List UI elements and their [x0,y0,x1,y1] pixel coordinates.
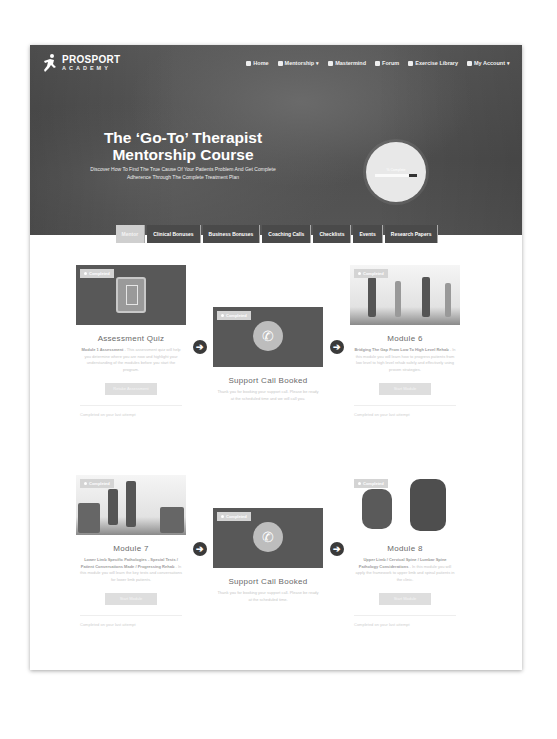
check-icon [221,314,224,317]
equipment-shape [78,503,100,533]
module-thumbnail: Completed [76,265,186,325]
module-title: Module 8 [350,544,460,553]
divider [354,615,456,616]
status-badge: Completed [354,479,388,488]
logo-title: PROSPORT [62,55,121,65]
module-meta: Completed on your last attempt [76,412,186,417]
check-icon [84,482,87,485]
module-card-assessment[interactable]: Completed Assessment Quiz Module 1 Asses… [76,265,186,417]
nav-my-account[interactable]: My Account ▾ [467,60,510,66]
divider [80,405,182,406]
nav-home[interactable]: Home [246,60,268,66]
arrow-right-icon: ➔ [330,340,344,354]
figure-shape [445,283,451,317]
figure-shape [108,489,118,525]
module-meta: Completed on your last attempt [350,412,460,417]
phone-icon: ✆ [253,522,283,552]
status-badge: Completed [217,311,251,320]
nav-mastermind[interactable]: Mastermind [328,60,366,66]
check-icon [221,515,224,518]
chat-icon [375,61,380,66]
phone-icon: ✆ [253,321,283,351]
tab-mentor[interactable]: Mentor [116,225,146,243]
progress-bar [375,174,417,177]
start-module-button[interactable]: Start Module [105,593,157,605]
graduation-icon [278,61,283,66]
nav-mentorship[interactable]: Mentorship ▾ [278,60,320,66]
module-thumbnail: Completed [76,475,186,535]
retake-assessment-button[interactable]: Retake Assessment [105,383,157,395]
figure-shape [126,481,136,527]
module-thumbnail: Completed ✆ [213,508,323,568]
module-title: Support Call Booked [213,577,323,586]
module-description: Thank you for booking your support call.… [213,389,323,402]
module-description: Upper Limb / Cervical Spine / Lumbar Spi… [350,557,460,583]
module-card-support-call[interactable]: Completed ✆ Support Call Booked Thank yo… [213,307,323,402]
logo-subtitle: ACADEMY [62,66,121,72]
chevron-down-icon: ▾ [507,60,510,66]
module-title: Module 6 [350,334,460,343]
tab-research-papers[interactable]: Research Papers [385,225,439,243]
page-title: The ‘Go-To’ Therapist Mentorship Course [78,129,288,163]
arrow-right-icon: ➔ [193,340,207,354]
status-badge: Completed [80,269,114,278]
home-icon [246,61,251,66]
module-description: Thank you for booking your support call.… [213,590,323,603]
page-container: PROSPORT ACADEMY Home Mentorship ▾ Maste… [30,45,522,670]
runner-icon [42,53,58,73]
module-meta: Completed on your last attempt [350,622,460,627]
start-module-button[interactable]: Start Module [379,593,431,605]
module-card-support-call-2[interactable]: Completed ✆ Support Call Booked Thank yo… [213,508,323,603]
trophy-icon [328,61,333,66]
status-badge: Completed [80,479,114,488]
tab-business-bonuses[interactable]: Business Bonuses [203,225,261,243]
module-description: Lower Limb Specific Pathologies - Specia… [76,557,186,583]
module-card-module-8[interactable]: Completed Module 8 Upper Limb / Cervical… [350,475,460,627]
tab-checklists[interactable]: Checklists [313,225,351,243]
course-progress-circle: % Complete [366,142,426,202]
check-icon [84,272,87,275]
module-thumbnail: Completed [350,265,460,325]
tab-events[interactable]: Events [353,225,382,243]
chevron-down-icon: ▾ [316,60,319,66]
module-description: Module 1 Assessment - This assessment qu… [76,347,186,373]
module-meta: Completed on your last attempt [76,622,186,627]
nav-exercise-library[interactable]: Exercise Library [408,60,458,66]
check-icon [358,272,361,275]
arrow-right-icon: ➔ [330,542,344,556]
module-card-module-7[interactable]: Completed Module 7 Lower Limb Specific P… [76,475,186,627]
figure-shape [410,479,446,531]
clipboard-icon [116,277,146,313]
hero-banner: PROSPORT ACADEMY Home Mentorship ▾ Maste… [30,45,522,235]
check-icon [358,482,361,485]
module-title: Module 7 [76,544,186,553]
figure-shape [362,489,392,529]
divider [80,615,182,616]
nav-forum[interactable]: Forum [375,60,399,66]
figure-shape [368,277,376,317]
module-description: Bridging The Gap From Low To High Level … [350,347,460,373]
module-title: Assessment Quiz [76,334,186,343]
module-thumbnail: Completed ✆ [213,307,323,367]
module-thumbnail: Completed [350,475,460,535]
equipment-shape [160,507,184,533]
figure-shape [395,281,401,317]
status-badge: Completed [354,269,388,278]
course-tabs: Mentor Clinical Bonuses Business Bonuses… [30,225,522,243]
status-badge: Completed [217,512,251,521]
arrow-right-icon: ➔ [193,542,207,556]
top-nav: PROSPORT ACADEMY Home Mentorship ▾ Maste… [30,45,522,81]
main-menu: Home Mentorship ▾ Mastermind Forum [246,60,510,66]
divider [354,405,456,406]
tab-coaching-calls[interactable]: Coaching Calls [262,225,311,243]
module-card-module-6[interactable]: Completed Module 6 Bridging The Gap From… [350,265,460,417]
figure-shape [422,277,430,317]
module-title: Support Call Booked [213,376,323,385]
hero-subtitle: Discover How To Find The True Cause Of Y… [78,166,288,181]
start-module-button[interactable]: Start Module [379,383,431,395]
logo[interactable]: PROSPORT ACADEMY [42,53,121,73]
progress-fill [375,174,409,177]
user-icon [467,61,472,66]
tab-clinical-bonuses[interactable]: Clinical Bonuses [147,225,200,243]
dumbbell-icon [408,61,413,66]
